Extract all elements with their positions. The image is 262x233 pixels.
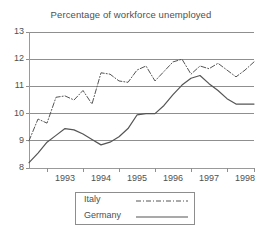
x-axis-label: 1994 [81,173,121,183]
legend-swatch-italy [136,193,188,209]
legend-item-italy: Italy [76,193,196,209]
chart-figure: Percentage of workforce unemployed 89101… [0,0,262,233]
x-axis-label: 1995 [117,173,157,183]
x-axis-label: 1997 [189,173,229,183]
legend-swatch-germany [136,209,188,225]
y-axis-label: 12 [6,53,24,63]
x-axis-label: 1996 [153,173,193,183]
legend-label-germany: Germany [84,210,121,220]
y-axis-label: 8 [6,162,24,172]
chart-legend: Italy Germany [75,192,195,225]
x-axis-ticks [47,168,254,172]
series-line-germany [29,76,254,163]
legend-label-italy: Italy [84,194,101,204]
y-axis-label: 11 [6,80,24,90]
gridlines [29,32,254,168]
y-axis-label: 10 [6,108,24,118]
y-axis-label: 13 [6,26,24,36]
axes [29,32,254,168]
series-line-italy [29,59,254,141]
y-axis-label: 9 [6,135,24,145]
data-series-group [29,59,254,162]
legend-item-germany: Germany [76,209,196,225]
x-axis-label: 1998 [225,173,262,183]
x-axis-label: 1993 [45,173,85,183]
